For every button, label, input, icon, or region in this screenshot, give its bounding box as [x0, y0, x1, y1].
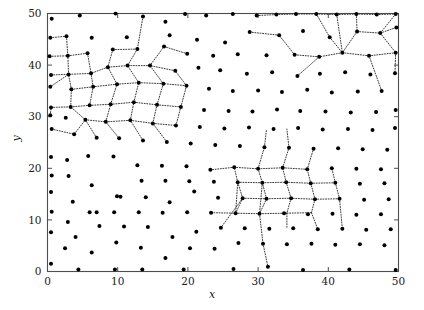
- data-point: [379, 167, 383, 171]
- data-point: [95, 210, 99, 214]
- data-point: [236, 241, 240, 245]
- data-point: [113, 267, 117, 271]
- data-point: [336, 146, 340, 150]
- data-point: [293, 53, 297, 57]
- data-point: [340, 227, 344, 231]
- data-point: [222, 127, 226, 131]
- data-point: [63, 246, 67, 250]
- data-point: [66, 54, 70, 58]
- scatter-plot-figure: 0102030405001020304050 x y: [0, 0, 424, 310]
- data-point: [67, 72, 71, 76]
- data-point: [114, 12, 118, 16]
- data-point: [195, 38, 199, 42]
- data-point: [313, 197, 317, 201]
- data-point: [277, 33, 281, 37]
- data-point: [349, 111, 353, 115]
- data-point: [49, 230, 53, 234]
- data-point: [165, 140, 169, 144]
- data-point: [274, 13, 278, 17]
- data-point: [256, 167, 260, 171]
- data-point: [338, 197, 342, 201]
- data-point: [260, 181, 264, 185]
- data-point: [309, 242, 313, 246]
- data-point: [160, 164, 164, 168]
- data-point: [389, 227, 393, 231]
- data-point: [333, 181, 337, 185]
- data-point: [48, 36, 52, 40]
- data-point: [265, 53, 269, 57]
- data-point: [375, 13, 379, 17]
- data-point: [331, 212, 335, 216]
- data-point: [232, 267, 236, 271]
- data-point: [207, 87, 211, 91]
- data-point: [346, 127, 350, 131]
- data-point: [146, 225, 150, 229]
- data-point: [64, 116, 68, 120]
- data-point: [174, 123, 178, 127]
- x-tick-label: 0: [44, 275, 51, 287]
- data-point: [385, 148, 389, 152]
- data-point: [76, 267, 80, 271]
- data-point: [289, 196, 293, 200]
- data-point: [243, 226, 247, 230]
- data-point: [387, 197, 391, 201]
- data-point: [140, 179, 144, 183]
- data-point: [305, 167, 309, 171]
- y-axis-label: y: [10, 129, 23, 149]
- data-point: [291, 226, 295, 230]
- data-point: [265, 197, 269, 201]
- data-point: [48, 113, 52, 117]
- data-point: [179, 105, 183, 109]
- data-point: [202, 108, 206, 112]
- data-point: [50, 17, 54, 21]
- data-point: [223, 40, 227, 44]
- y-tick-label: 30: [28, 110, 41, 122]
- data-point: [78, 14, 82, 18]
- data-point: [218, 68, 222, 72]
- data-point: [284, 180, 288, 184]
- data-point: [48, 85, 52, 89]
- y-tick-label: 50: [28, 7, 41, 19]
- data-point: [69, 105, 73, 109]
- data-point: [208, 168, 212, 172]
- data-point: [117, 136, 121, 140]
- data-point: [50, 127, 54, 131]
- data-point: [371, 128, 375, 132]
- data-point: [393, 126, 397, 130]
- data-point: [50, 174, 54, 178]
- data-point: [111, 48, 115, 52]
- data-point: [188, 246, 192, 250]
- data-point: [104, 120, 108, 124]
- data-point: [189, 142, 193, 146]
- data-point: [168, 33, 172, 37]
- data-point: [161, 82, 165, 86]
- data-point: [194, 230, 198, 234]
- data-point: [74, 235, 78, 239]
- data-point: [168, 200, 172, 204]
- data-point: [163, 179, 167, 183]
- x-tick-label: 10: [111, 275, 124, 287]
- data-point: [182, 267, 186, 271]
- data-point: [144, 195, 148, 199]
- data-point: [262, 145, 266, 149]
- data-point: [65, 158, 69, 162]
- data-point: [90, 250, 94, 254]
- x-tick-label: 20: [181, 275, 194, 287]
- data-point: [90, 183, 94, 187]
- data-point: [368, 72, 372, 76]
- data-point: [236, 52, 240, 56]
- data-point: [267, 227, 271, 231]
- data-point: [364, 228, 368, 232]
- data-point: [183, 12, 187, 16]
- data-point: [241, 196, 245, 200]
- data-point: [358, 242, 362, 246]
- data-point: [248, 30, 252, 34]
- data-point: [266, 265, 270, 269]
- data-point: [213, 143, 217, 147]
- data-point: [361, 147, 365, 151]
- data-point: [394, 12, 398, 16]
- data-point: [64, 34, 68, 38]
- data-point: [163, 256, 167, 260]
- data-point: [367, 54, 371, 58]
- x-tick-label: 40: [322, 275, 335, 287]
